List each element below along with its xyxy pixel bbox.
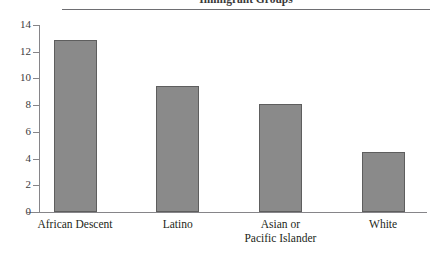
y-axis-tick-label: 10 bbox=[5, 72, 31, 83]
plot-area: 02468101214 African DescentLatinoAsian o… bbox=[0, 0, 436, 255]
y-axis-tick-mark bbox=[33, 52, 39, 53]
y-axis-tick-mark bbox=[33, 25, 39, 26]
x-axis-tick-label: Latino bbox=[123, 218, 233, 232]
y-axis-tick-label: 8 bbox=[5, 99, 31, 110]
y-axis-tick-label-wrap: 10 bbox=[0, 72, 31, 83]
y-axis-line bbox=[39, 25, 40, 213]
y-axis-tick-label-wrap: 4 bbox=[0, 153, 31, 164]
y-axis-tick-mark bbox=[33, 159, 39, 160]
bar bbox=[259, 104, 302, 212]
y-axis-tick-label-wrap: 2 bbox=[0, 179, 31, 190]
y-axis-tick-label: 6 bbox=[5, 126, 31, 137]
y-axis-tick-label-wrap: 6 bbox=[0, 126, 31, 137]
y-axis-tick-label-wrap: 0 bbox=[0, 206, 31, 217]
bar-chart-figure: Immigrant Groups 02468101214 African Des… bbox=[0, 0, 436, 255]
y-axis-tick-label: 4 bbox=[5, 153, 31, 164]
bar bbox=[362, 152, 405, 212]
y-axis-tick-label: 2 bbox=[5, 179, 31, 190]
bar bbox=[54, 40, 97, 212]
y-axis-tick-mark bbox=[33, 132, 39, 133]
y-axis-tick-mark bbox=[33, 185, 39, 186]
x-axis-tick-label: White bbox=[328, 218, 436, 232]
y-axis-tick-label-wrap: 14 bbox=[0, 19, 31, 30]
y-axis-tick-label-wrap: 8 bbox=[0, 99, 31, 110]
x-axis-line bbox=[27, 212, 427, 213]
y-axis-tick-mark bbox=[33, 78, 39, 79]
y-axis-tick-label: 0 bbox=[5, 206, 31, 217]
y-axis-tick-label: 14 bbox=[5, 19, 31, 30]
y-axis-tick-label-wrap: 12 bbox=[0, 46, 31, 57]
y-axis-tick-mark bbox=[33, 212, 39, 213]
x-axis-tick-label: Asian or Pacific Islander bbox=[225, 218, 335, 245]
bar bbox=[156, 86, 199, 212]
x-axis-tick-label: African Descent bbox=[20, 218, 130, 232]
y-axis-tick-label: 12 bbox=[5, 46, 31, 57]
y-axis-tick-mark bbox=[33, 105, 39, 106]
